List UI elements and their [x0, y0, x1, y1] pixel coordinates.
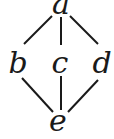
edge-a-d [70, 16, 98, 44]
hasse-diagram: a b c d e [0, 0, 114, 139]
edge-d-e [68, 80, 98, 112]
node-b: b [8, 45, 27, 80]
node-c: c [52, 45, 69, 80]
node-a: a [52, 0, 70, 21]
nodes: a b c d e [8, 0, 111, 138]
node-d: d [92, 45, 111, 80]
node-e: e [49, 103, 67, 138]
edge-a-b [24, 16, 52, 44]
